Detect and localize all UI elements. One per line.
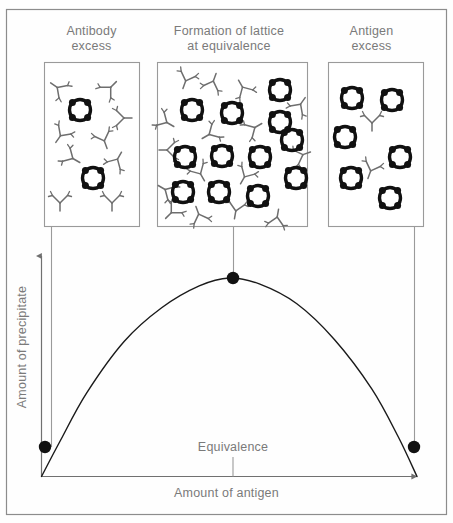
figure-root: Antibody excess Formation of lattice at … [0,0,453,523]
panel-caption-antigen-excess: Antigen excess [320,24,423,54]
x-axis-label: Amount of antigen [0,486,453,500]
marker-equivalence-point [227,272,239,284]
y-axis-label: Amount of precipitate [15,267,29,427]
curve-markers [39,272,420,453]
panel-caption-lattice: Formation of lattice at equivalence [148,24,310,54]
marker-antigen-excess-point [408,441,420,453]
panel-caption-antibody-excess: Antibody excess [44,24,139,54]
marker-antibody-excess-point [39,441,51,453]
panel-box-antigen-excess [329,63,424,227]
connector-lines [52,226,415,447]
equivalence-label: Equivalence [158,440,308,454]
